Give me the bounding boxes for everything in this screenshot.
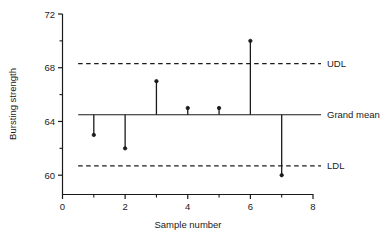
sample-point bbox=[217, 106, 220, 109]
x-tick-label: 6 bbox=[248, 201, 253, 212]
sample-point bbox=[280, 173, 283, 176]
reference-label-ldl: LDL bbox=[327, 160, 344, 171]
sample-point bbox=[249, 39, 252, 42]
x-tick-label: 0 bbox=[60, 201, 65, 212]
x-axis-title: Sample number bbox=[154, 219, 221, 230]
y-tick-label: 72 bbox=[44, 9, 55, 20]
x-tick-label: 4 bbox=[185, 201, 190, 212]
sample-point bbox=[123, 147, 126, 150]
chart-canvas: 60646872 02468 UDLGrand meanLDL Bursting… bbox=[0, 0, 389, 239]
reference-label-grand-mean: Grand mean bbox=[327, 109, 380, 120]
sample-point bbox=[92, 133, 95, 136]
control-chart: 60646872 02468 UDLGrand meanLDL Bursting… bbox=[0, 0, 389, 239]
x-tick-label: 2 bbox=[122, 201, 127, 212]
sample-point bbox=[155, 79, 158, 82]
x-tick-label: 8 bbox=[310, 201, 315, 212]
sample-point bbox=[186, 106, 189, 109]
reference-label-udl: UDL bbox=[327, 58, 346, 69]
y-tick-label: 68 bbox=[44, 62, 55, 73]
y-tick-label: 60 bbox=[44, 170, 55, 181]
y-axis-title: Bursting strength bbox=[7, 68, 18, 140]
y-tick-label: 64 bbox=[44, 116, 55, 127]
